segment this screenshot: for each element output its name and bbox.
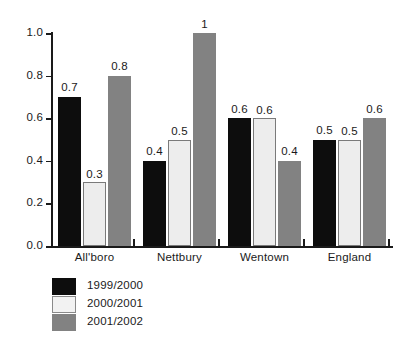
bar-wentown-1999-2000: 0.6: [228, 118, 251, 246]
x-axis-stub-tick: [303, 239, 305, 247]
legend-item: 2001/2002: [52, 313, 143, 331]
bar-value-label: 0.6: [366, 104, 383, 116]
bar-england-2001-2002: 0.6: [363, 118, 386, 246]
bar-value-label: 0.7: [61, 82, 78, 94]
x-axis-stub-tick: [133, 239, 135, 247]
bar-nettbury-2000-2001: 0.5: [168, 140, 191, 247]
legend-swatch: [52, 296, 76, 313]
bar-value-label: 0.6: [231, 104, 248, 116]
x-axis-line: [51, 246, 393, 248]
y-axis-tick-mark: [46, 76, 52, 78]
legend-swatch: [52, 278, 76, 295]
bar-wentown-2001-2002: 0.4: [278, 161, 301, 246]
bar-value-label: 0.5: [341, 126, 358, 138]
bar-value-label: 0.4: [146, 146, 163, 158]
bar-value-label: 0.8: [111, 61, 128, 73]
y-axis-tick-mark: [46, 33, 52, 35]
y-axis-tick-label: 0.6: [26, 112, 43, 124]
bar-england-2000-2001: 0.5: [338, 140, 361, 247]
category-label-england: England: [328, 252, 372, 264]
legend-item: 2000/2001: [52, 295, 143, 313]
bar-value-label: 1: [201, 19, 208, 31]
y-axis-tick-label: 0.8: [26, 70, 43, 82]
legend-label: 2000/2001: [87, 298, 143, 310]
legend-item: 1999/2000: [52, 277, 143, 295]
bar-value-label: 0.4: [281, 146, 298, 158]
bar-value-label: 0.5: [316, 125, 333, 137]
y-axis-tick-label: 0.0: [26, 240, 43, 252]
category-label-nettbury: Nettbury: [157, 252, 202, 264]
bar-wentown-2000-2001: 0.6: [253, 118, 276, 246]
chart-legend: 1999/20002000/20012001/2002: [52, 277, 143, 331]
legend-swatch: [52, 314, 76, 331]
plot-area: 0.70.30.80.40.510.60.60.40.50.50.6: [52, 33, 392, 246]
bar-value-label: 0.3: [86, 169, 103, 181]
category-label-wentown: Wentown: [240, 252, 289, 264]
bar-chart: 0.70.30.80.40.510.60.60.40.50.50.6 0.00.…: [0, 0, 414, 356]
legend-label: 2001/2002: [87, 316, 143, 328]
category-label-all-boro: All'boro: [75, 252, 115, 264]
legend-label: 1999/2000: [87, 280, 143, 292]
bar-all-boro-2001-2002: 0.8: [108, 76, 131, 246]
x-axis-stub-tick: [218, 239, 220, 247]
y-axis-tick-label: 0.4: [26, 155, 43, 167]
bar-all-boro-1999-2000: 0.7: [58, 97, 81, 246]
y-axis-tick-mark: [46, 161, 52, 163]
y-axis-tick-label: 1.0: [26, 27, 43, 39]
x-axis-stub-tick: [388, 239, 390, 247]
bar-all-boro-2000-2001: 0.3: [83, 182, 106, 246]
y-axis-tick-mark: [46, 203, 52, 205]
bar-nettbury-1999-2000: 0.4: [143, 161, 166, 246]
bar-value-label: 0.6: [256, 105, 273, 117]
y-axis-tick-label: 0.2: [26, 198, 43, 210]
y-axis-tick-mark: [46, 246, 52, 248]
bar-value-label: 0.5: [171, 126, 188, 138]
bar-england-1999-2000: 0.5: [313, 140, 336, 247]
y-axis-tick-mark: [46, 118, 52, 120]
bar-nettbury-2001-2002: 1: [193, 33, 216, 246]
